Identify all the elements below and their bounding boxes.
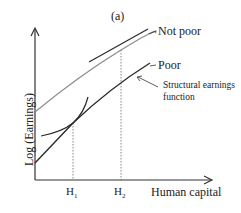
annotation-line-1: Structural earnings [163, 79, 235, 91]
panel-label: (a) [111, 9, 124, 24]
structural-earnings-annotation: Structural earnings function [163, 79, 235, 103]
x-tick-h2: H2 [114, 185, 125, 200]
annotation-line-2: function [163, 91, 235, 103]
not-poor-label: Not poor [158, 24, 201, 39]
x-axis-label: Human capital [151, 185, 221, 200]
h1-base: H [66, 185, 74, 197]
axes [31, 28, 212, 184]
h2-sub: 2 [122, 192, 126, 200]
y-axis-label: Log (Earnings) [22, 85, 37, 175]
h1-sub: 1 [74, 192, 78, 200]
annotation-arrow [138, 77, 158, 87]
x-tick-h1: H1 [66, 185, 77, 200]
poor-curve [35, 63, 150, 163]
poor-label: Poor [158, 58, 181, 73]
poor-leader [150, 65, 156, 66]
tangent-line-h2 [89, 29, 148, 62]
h2-base: H [114, 185, 122, 197]
